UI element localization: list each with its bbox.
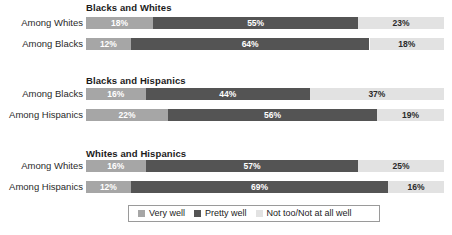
legend-item-pretty-well: Pretty well (194, 208, 247, 219)
bar-segment-very-well: 12% (86, 38, 131, 50)
bar-segment-value: 16% (408, 181, 425, 193)
bar-row: Among Whites 16% 57% 25% (0, 160, 452, 172)
bar-segment-very-well: 18% (86, 17, 153, 29)
bar-row: Among Blacks 16% 44% 37% (0, 88, 452, 100)
bar-segment-pretty-well: 56% (168, 109, 377, 121)
bar-segment-pretty-well: 69% (131, 181, 388, 193)
bar-segment-pretty-well: 55% (153, 17, 358, 29)
legend-label: Not too/Not at all well (267, 208, 352, 219)
legend-label: Very well (149, 208, 185, 219)
bar-segment-value: 22% (119, 109, 136, 121)
bar-segment-value: 44% (219, 88, 236, 100)
row-label: Among Whites (0, 159, 83, 172)
chart-group-1: Blacks and Whites Among Whites 18% 55% 2… (0, 0, 452, 62)
bar-segment-not-too-well: 18% (370, 38, 445, 50)
bar-segment-value: 56% (264, 109, 281, 121)
legend-swatch-icon (256, 210, 263, 217)
row-label: Among Whites (0, 16, 83, 29)
bar-segment-not-too-well: 23% (358, 17, 444, 29)
legend-label: Pretty well (205, 208, 247, 219)
bar-row: Among Hispanics 12% 69% 16% (0, 181, 452, 193)
bar-segment-value: 57% (243, 160, 260, 172)
bar-segment-value: 69% (251, 181, 268, 193)
legend-item-very-well: Very well (138, 208, 185, 219)
legend-swatch-icon (194, 210, 201, 217)
bar-row: Among Hispanics 22% 56% 19% (0, 109, 452, 121)
bar-segment-value: 18% (398, 38, 415, 50)
bar-segment-value: 12% (100, 181, 117, 193)
group-title: Whites and Hispanics (86, 148, 186, 159)
bar-segment-value: 19% (402, 109, 419, 121)
row-label: Among Hispanics (0, 180, 83, 193)
bar-track: 22% 56% 19% (86, 109, 444, 121)
bar-segment-value: 16% (107, 88, 124, 100)
chart-group-3: Whites and Hispanics Among Whites 16% 57… (0, 146, 452, 208)
bar-segment-value: 12% (100, 38, 117, 50)
bar-segment-value: 16% (107, 160, 124, 172)
legend-item-not-too-well: Not too/Not at all well (256, 208, 352, 219)
chart-group-2: Blacks and Hispanics Among Blacks 16% 44… (0, 73, 452, 135)
bar-row: Among Whites 18% 55% 23% (0, 17, 452, 29)
bar-segment-value: 23% (393, 17, 410, 29)
bar-segment-not-too-well: 16% (388, 181, 444, 193)
bar-track: 12% 64% 18% (86, 38, 444, 50)
row-label: Among Blacks (0, 37, 83, 50)
bar-segment-value: 18% (111, 17, 128, 29)
bar-segment-very-well: 16% (86, 88, 146, 100)
bar-segment-value: 64% (242, 38, 259, 50)
bar-segment-very-well: 12% (86, 181, 131, 193)
bar-segment-very-well: 16% (86, 160, 146, 172)
chart-legend: Very well Pretty well Not too/Not at all… (128, 205, 380, 222)
bar-track: 12% 69% 16% (86, 181, 444, 193)
bar-track: 18% 55% 23% (86, 17, 444, 29)
bar-row: Among Blacks 12% 64% 18% (0, 38, 452, 50)
bar-segment-pretty-well: 57% (146, 160, 359, 172)
bar-segment-very-well: 22% (86, 109, 168, 121)
legend-swatch-icon (138, 210, 145, 217)
row-label: Among Hispanics (0, 108, 83, 121)
bar-track: 16% 44% 37% (86, 88, 444, 100)
bar-segment-value: 37% (368, 88, 385, 100)
group-title: Blacks and Whites (86, 2, 172, 13)
bar-segment-not-too-well: 37% (310, 88, 444, 100)
bar-segment-not-too-well: 25% (358, 160, 444, 172)
row-label: Among Blacks (0, 87, 83, 100)
bar-segment-pretty-well: 44% (146, 88, 310, 100)
stacked-bar-chart: Blacks and Whites Among Whites 18% 55% 2… (0, 0, 452, 235)
bar-track: 16% 57% 25% (86, 160, 444, 172)
bar-segment-value: 55% (247, 17, 264, 29)
bar-segment-pretty-well: 64% (131, 38, 370, 50)
bar-segment-not-too-well: 19% (377, 109, 444, 121)
group-title: Blacks and Hispanics (86, 75, 186, 86)
bar-segment-value: 25% (393, 160, 410, 172)
